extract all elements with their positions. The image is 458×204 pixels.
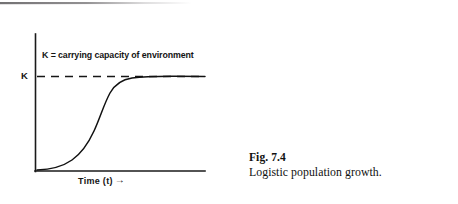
arrow-right-icon: →	[113, 174, 125, 185]
x-axis-label-text: Time (t)	[78, 176, 113, 186]
y-axis-tick-label-k: K	[21, 70, 28, 81]
x-axis-label: Time (t)→	[78, 174, 125, 186]
figure-number: Fig. 7.4	[249, 150, 449, 164]
logistic-curve	[37, 76, 205, 170]
figure-caption-text: Logistic population growth.	[249, 165, 449, 180]
carrying-capacity-label: K = carrying capacity of environment	[42, 50, 194, 60]
logistic-growth-chart: K = carrying capacity of environment K T…	[0, 0, 240, 204]
figure-page: K = carrying capacity of environment K T…	[0, 0, 458, 204]
figure-caption: Fig. 7.4 Logistic population growth.	[249, 150, 449, 180]
